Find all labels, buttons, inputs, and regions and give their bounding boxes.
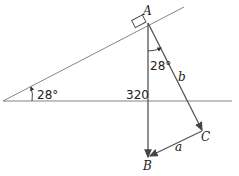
angle-label-a: 28° [150, 59, 171, 73]
vector-label-a: a [175, 140, 182, 154]
angle-label-incline: 28° [37, 88, 58, 102]
weight-label: 320 [126, 88, 149, 102]
point-label-c: C [201, 130, 210, 144]
incline-line [3, 7, 184, 101]
force-diagram: A B C b a 28° 28° 320 [0, 0, 239, 176]
point-label-a: A [142, 4, 152, 18]
angle-arc-a [148, 48, 161, 51]
vector-b [148, 23, 202, 130]
angle-arc-incline [31, 87, 32, 101]
vector-label-b: b [178, 70, 186, 84]
point-label-b: B [142, 159, 152, 173]
